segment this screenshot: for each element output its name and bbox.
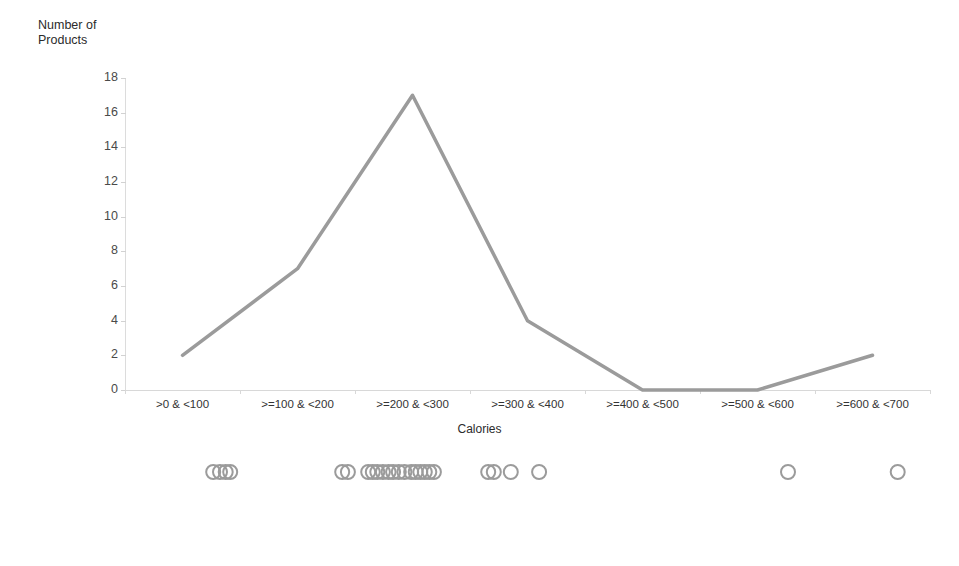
dot-marker	[891, 465, 905, 479]
dot-marker	[781, 465, 795, 479]
dot-marker	[532, 465, 546, 479]
dot-marker	[504, 465, 518, 479]
dot-plot-panel: 0100200300400500600700 Calories	[0, 450, 959, 566]
line-chart-panel: 024681012141618 >0 & <100>=100 & <200>=2…	[0, 0, 959, 450]
chart-root: Number of Products 024681012141618 >0 & …	[0, 0, 959, 566]
series-polyline	[183, 95, 873, 390]
line-series-svg	[0, 0, 959, 450]
line-chart-x-axis-title: Calories	[0, 422, 959, 436]
dot-markers-svg	[0, 450, 959, 566]
